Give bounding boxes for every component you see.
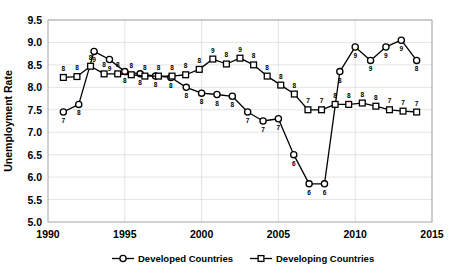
- data-point-developing: [183, 72, 189, 78]
- data-point-label: 8: [143, 64, 147, 71]
- data-point-developing: [291, 91, 297, 97]
- data-point-label: 8: [102, 61, 106, 68]
- data-point-label: 8: [62, 65, 66, 72]
- data-point-developing: [156, 73, 162, 79]
- data-point-developed: [214, 91, 220, 97]
- data-point-label: 8: [215, 100, 219, 107]
- data-point-developing: [196, 66, 202, 72]
- data-point-label: 8: [154, 81, 158, 88]
- data-point-label: 6: [307, 189, 311, 196]
- data-point-developing: [251, 62, 257, 68]
- y-tick-label: 6.0: [27, 171, 42, 183]
- data-point-label: 7: [320, 97, 324, 104]
- data-point-label: 9: [353, 52, 357, 59]
- data-point-developing: [373, 103, 379, 109]
- data-point-label: 8: [338, 77, 342, 84]
- data-point-label: 8: [169, 82, 173, 89]
- data-point-label: 8: [197, 57, 201, 64]
- data-point-label: 8: [374, 94, 378, 101]
- data-point-developing: [237, 55, 243, 61]
- data-point-developing: [142, 73, 148, 79]
- data-point-label: 9: [238, 46, 242, 53]
- data-point-label: 8: [265, 64, 269, 71]
- data-point-developed: [383, 44, 389, 50]
- legend-marker-1: [258, 256, 264, 262]
- unemployment-rate-line-chart: 7899888888887776668999988888888888898988…: [0, 0, 451, 276]
- chart-container: 7899888888887776668999988888888888898988…: [0, 0, 451, 276]
- data-point-developed: [106, 56, 112, 62]
- data-point-label: 7: [277, 124, 281, 131]
- data-point-label: 8: [184, 92, 188, 99]
- x-tick-label: 2015: [420, 228, 444, 240]
- data-point-developed: [306, 181, 312, 187]
- data-point-developed: [367, 57, 373, 63]
- data-point-developed: [275, 116, 281, 122]
- y-tick-label: 7.0: [27, 126, 42, 138]
- data-point-developing: [305, 107, 311, 113]
- data-point-developing: [60, 75, 66, 81]
- data-point-label: 8: [129, 62, 133, 69]
- data-point-developing: [346, 101, 352, 107]
- y-tick-label: 8.0: [27, 81, 42, 93]
- data-point-developed: [76, 101, 82, 107]
- y-tick-label: 9.0: [27, 36, 42, 48]
- data-point-label: 8: [184, 62, 188, 69]
- data-point-developing: [332, 101, 338, 107]
- data-point-label: 8: [415, 65, 419, 72]
- data-point-developed: [229, 93, 235, 99]
- data-point-label: 9: [211, 47, 215, 54]
- data-point-developed: [321, 181, 327, 187]
- y-tick-label: 7.5: [27, 104, 42, 116]
- data-point-developed: [398, 37, 404, 43]
- chart-legend: Developed CountriesDeveloping Countries: [112, 253, 374, 264]
- x-tick-label: 2000: [190, 228, 214, 240]
- data-point-developing: [88, 63, 94, 69]
- data-point-label: 9: [369, 65, 373, 72]
- x-tick-label: 1990: [36, 228, 60, 240]
- data-point-label: 9: [399, 45, 403, 52]
- data-point-developed: [260, 118, 266, 124]
- data-point-label: 8: [279, 73, 283, 80]
- y-axis-title: Unemployment Rate: [2, 70, 14, 172]
- x-tick-label: 2010: [344, 228, 368, 240]
- legend-label: Developed Countries: [138, 253, 233, 264]
- data-point-label: 8: [77, 109, 81, 116]
- data-point-developing: [224, 61, 230, 67]
- data-point-label: 9: [384, 52, 388, 59]
- y-tick-label: 5.0: [27, 216, 42, 228]
- data-point-label: 8: [157, 64, 161, 71]
- y-tick-label: 8.5: [27, 59, 42, 71]
- data-point-developing: [359, 100, 365, 106]
- data-point-developing: [319, 107, 325, 113]
- data-point-label: 7: [415, 100, 419, 107]
- data-point-developing: [210, 56, 216, 62]
- data-point-developing: [400, 108, 406, 114]
- data-point-label: 8: [225, 51, 229, 58]
- data-point-developing: [74, 74, 80, 80]
- data-point-label: 6: [323, 189, 327, 196]
- data-point-label: 8: [75, 64, 79, 71]
- data-point-label: 8: [116, 61, 120, 68]
- data-point-developed: [291, 152, 297, 158]
- data-point-label: 8: [89, 54, 93, 61]
- data-point-developing: [101, 71, 107, 77]
- data-point-label: 6: [292, 160, 296, 167]
- data-point-developing: [169, 73, 175, 79]
- data-point-label: 8: [123, 77, 127, 84]
- x-tick-label: 1995: [113, 228, 137, 240]
- data-point-label: 8: [293, 82, 297, 89]
- y-tick-label: 6.5: [27, 149, 42, 161]
- data-point-label: 7: [401, 99, 405, 106]
- data-point-label: 8: [347, 92, 351, 99]
- x-axis-tick-labels: 199019952000200520102015: [36, 228, 444, 240]
- data-point-label: 8: [200, 98, 204, 105]
- data-point-developed: [337, 69, 343, 75]
- legend-marker-0: [120, 255, 126, 261]
- data-point-label: 7: [261, 126, 265, 133]
- data-point-label: 8: [333, 92, 337, 99]
- data-point-label: 8: [360, 91, 364, 98]
- data-point-developed: [352, 44, 358, 50]
- x-tick-label: 2005: [267, 228, 291, 240]
- data-point-developing: [128, 72, 134, 78]
- data-point-developed: [199, 90, 205, 96]
